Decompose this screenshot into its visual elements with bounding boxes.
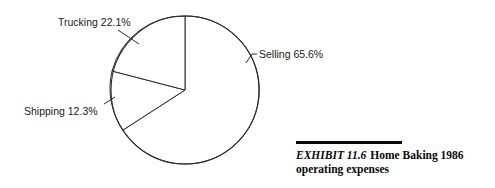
pie-label-trucking: Trucking 22.1% [58,16,131,28]
pie-label-selling: Selling 65.6% [259,48,323,60]
caption-exhibit-number: EXHIBIT 11.6 [296,149,366,161]
exhibit-caption: EXHIBIT 11.6Home Baking 1986 operating e… [296,141,492,176]
caption-line: EXHIBIT 11.6Home Baking 1986 operating e… [296,149,492,176]
exhibit-figure: Trucking 22.1% Shipping 12.3% Selling 65… [0,0,495,188]
caption-divider-rule [296,141,402,144]
pie-label-shipping: Shipping 12.3% [24,105,98,117]
